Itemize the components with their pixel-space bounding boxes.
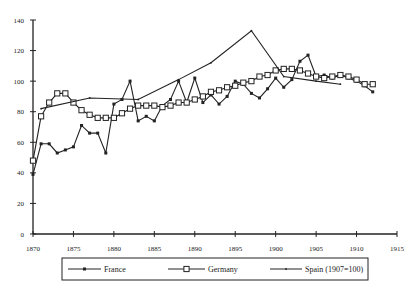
square-marker-icon <box>233 83 238 88</box>
chart-container: 0204060801001201401870187518801885189018… <box>0 0 420 295</box>
dot-marker-icon <box>169 98 172 101</box>
dot-marker-icon <box>112 103 115 106</box>
small-dot-marker-icon <box>210 62 212 64</box>
square-marker-icon <box>257 74 262 79</box>
x-tick-label: 1870 <box>26 245 41 253</box>
square-marker-icon <box>79 108 84 113</box>
square-marker-icon <box>87 112 92 117</box>
series-france <box>32 54 375 176</box>
square-marker-icon <box>225 85 230 90</box>
square-marker-icon <box>241 80 246 85</box>
y-tick-label: 20 <box>17 200 25 208</box>
dot-marker-icon <box>282 86 285 89</box>
square-marker-icon <box>55 91 60 96</box>
square-marker-icon <box>314 74 319 79</box>
dot-marker-icon <box>201 101 204 104</box>
line-chart: 0204060801001201401870187518801885189018… <box>0 0 420 295</box>
dot-marker-icon <box>145 115 148 118</box>
x-tick-label: 1900 <box>269 245 284 253</box>
square-marker-icon <box>265 72 270 77</box>
x-tick-label: 1890 <box>188 245 203 253</box>
small-dot-marker-icon <box>285 268 287 270</box>
small-dot-marker-icon <box>315 80 317 82</box>
square-marker-icon <box>95 115 100 120</box>
square-marker-icon <box>119 111 124 116</box>
small-dot-marker-icon <box>178 79 180 81</box>
dot-marker-icon <box>298 60 301 63</box>
square-marker-icon <box>176 100 181 105</box>
square-marker-icon <box>168 103 173 108</box>
x-tick-label: 1880 <box>107 245 122 253</box>
x-tick-label: 1875 <box>66 245 81 253</box>
x-tick-label: 1915 <box>390 245 405 253</box>
y-tick-label: 120 <box>14 47 25 55</box>
dot-marker-icon <box>80 124 83 127</box>
dot-marker-icon <box>129 80 132 83</box>
square-marker-icon <box>103 115 108 120</box>
dot-marker-icon <box>88 132 91 135</box>
dot-marker-icon <box>234 80 237 83</box>
square-marker-icon <box>200 94 205 99</box>
square-marker-icon <box>346 74 351 79</box>
small-dot-marker-icon <box>283 76 285 78</box>
square-marker-icon <box>249 79 254 84</box>
x-tick-label: 1910 <box>350 245 365 253</box>
dot-marker-icon <box>83 268 86 271</box>
dot-marker-icon <box>266 87 269 90</box>
dot-marker-icon <box>40 142 43 145</box>
square-marker-icon <box>208 89 213 94</box>
square-marker-icon <box>330 74 335 79</box>
legend-label: France <box>104 265 126 274</box>
square-marker-icon <box>216 88 221 93</box>
y-tick-label: 40 <box>17 169 25 177</box>
dot-marker-icon <box>64 148 67 151</box>
square-marker-icon <box>281 66 286 71</box>
dot-marker-icon <box>371 90 374 93</box>
square-marker-icon <box>152 103 157 108</box>
x-tick-label: 1905 <box>309 245 324 253</box>
legend-label: Spain (1907=100) <box>305 265 363 274</box>
dot-marker-icon <box>48 142 51 145</box>
dot-marker-icon <box>218 103 221 106</box>
square-marker-icon <box>30 158 35 163</box>
square-marker-icon <box>322 75 327 80</box>
square-marker-icon <box>144 103 149 108</box>
square-marker-icon <box>136 103 141 108</box>
y-tick-label: 60 <box>17 139 25 147</box>
dot-marker-icon <box>72 145 75 148</box>
legend: FranceGermanySpain (1907=100) <box>62 258 368 280</box>
series-line <box>33 69 373 161</box>
axes: 0204060801001201401870187518801885189018… <box>14 17 405 254</box>
dot-marker-icon <box>226 95 229 98</box>
dot-marker-icon <box>193 77 196 80</box>
square-marker-icon <box>338 72 343 77</box>
square-marker-icon <box>38 114 43 119</box>
series-line <box>33 55 373 174</box>
square-marker-icon <box>362 82 367 87</box>
legend-label: Germany <box>208 265 238 274</box>
dot-marker-icon <box>153 119 156 122</box>
square-marker-icon <box>354 77 359 82</box>
small-dot-marker-icon <box>40 108 42 110</box>
square-marker-icon <box>47 100 52 105</box>
square-marker-icon <box>127 106 132 111</box>
square-marker-icon <box>297 68 302 73</box>
dot-marker-icon <box>290 78 293 81</box>
series-germany <box>30 66 375 163</box>
y-tick-label: 140 <box>14 17 25 25</box>
dot-marker-icon <box>258 96 261 99</box>
y-tick-label: 80 <box>17 108 25 116</box>
y-tick: 0 <box>21 231 37 239</box>
dot-marker-icon <box>274 77 277 80</box>
y-tick-label: 100 <box>14 78 25 86</box>
square-marker-icon <box>184 266 189 271</box>
square-marker-icon <box>289 66 294 71</box>
y-tick-label: 0 <box>21 231 25 239</box>
dot-marker-icon <box>32 173 35 176</box>
square-marker-icon <box>111 115 116 120</box>
small-dot-marker-icon <box>89 97 91 99</box>
x-tick-label: 1895 <box>228 245 243 253</box>
dot-marker-icon <box>96 132 99 135</box>
dot-marker-icon <box>250 92 253 95</box>
dot-marker-icon <box>104 151 107 154</box>
